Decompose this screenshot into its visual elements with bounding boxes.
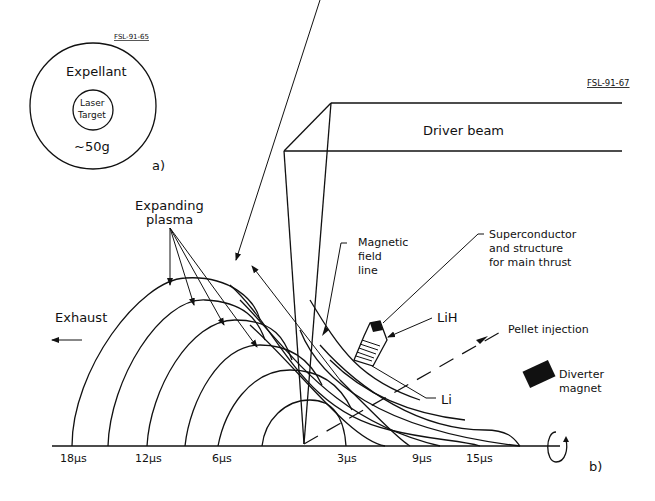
exhaust-label: Exhaust [55, 310, 107, 325]
magnet-label: magnet [559, 382, 602, 395]
time-3us: 3μs [337, 452, 357, 465]
diagram-canvas: FSL-91-65 Expellant Laser Target ~50g a)… [0, 0, 655, 501]
driver-beam-label: Driver beam [423, 123, 504, 138]
field-label: field [358, 250, 382, 263]
diverter-magnet-icon [523, 360, 556, 388]
figure-b: FSL-91-67 Driver beam [52, 0, 630, 474]
time-6us: 6μs [212, 452, 232, 465]
time-18us: 18μs [60, 452, 87, 465]
time-15us: 15μs [466, 452, 493, 465]
magnetic-leader [325, 243, 347, 330]
panel-a-label: a) [152, 158, 165, 173]
figure-a: FSL-91-65 Expellant Laser Target ~50g a) [30, 33, 165, 173]
main-thrust-label: for main thrust [489, 256, 572, 269]
field-lines [230, 285, 520, 446]
laser-label: Laser [80, 98, 105, 108]
rotation-symmetry-icon [548, 432, 567, 462]
expellant-label: Expellant [66, 64, 127, 79]
superconductor-structure [354, 321, 387, 366]
structure-label: and structure [489, 242, 563, 255]
time-12us: 12μs [135, 452, 162, 465]
lih-leader [388, 318, 432, 337]
line-label: line [358, 264, 378, 277]
target-label: Target [77, 110, 106, 120]
superconductor-label: Superconductor [489, 228, 577, 241]
expanding-label: Expanding [135, 198, 204, 213]
plasma-label: plasma [146, 212, 193, 227]
pellet-label: Pellet injection [508, 323, 589, 336]
field-arrow [236, 0, 320, 260]
figure-a-tag: FSL-91-65 [114, 33, 149, 41]
time-9us: 9μs [412, 452, 432, 465]
lih-label: LiH [437, 310, 458, 325]
diverter-label: Diverter [559, 368, 604, 381]
diagram-svg: FSL-91-65 Expellant Laser Target ~50g a)… [0, 0, 655, 501]
magnetic-label: Magnetic [358, 236, 408, 249]
figure-b-tag: FSL-91-67 [587, 78, 630, 88]
panel-b-label: b) [589, 459, 602, 474]
mass-label: ~50g [74, 139, 110, 154]
pellet-injection-path [304, 330, 504, 444]
li-label: Li [441, 392, 452, 407]
